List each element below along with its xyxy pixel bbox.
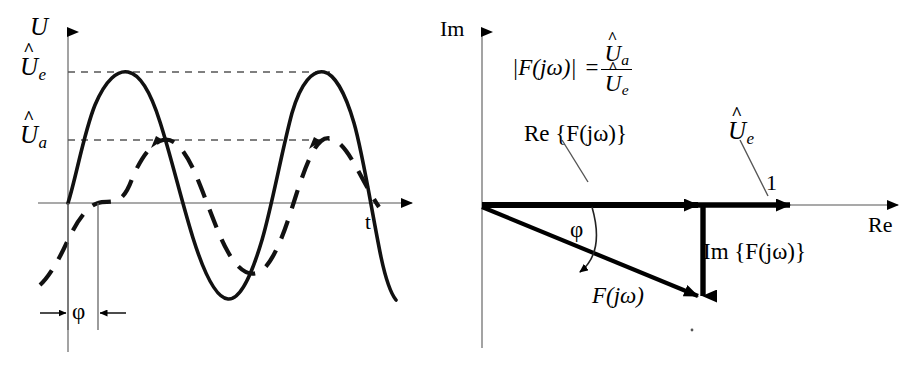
figure-canvas <box>0 0 923 367</box>
t-axis-label: t <box>365 212 371 233</box>
imag-part-label: Im {F(jω)} <box>703 240 806 263</box>
ue-hat-glyph: ^ <box>23 40 34 59</box>
left-phase-label: φ <box>72 300 85 323</box>
ue-hat-glyph-formula: ^ <box>608 59 618 76</box>
frequency-response-figure: U ^ Ue ^ Ua t φ Im Re |F(jω)| = ^ Ua ^ U… <box>0 0 923 367</box>
transfer-function-phasor-arrow <box>482 207 698 296</box>
magnitude-formula-lhs: |F(jω)| <box>512 55 577 80</box>
ue-subscript: e <box>38 65 46 84</box>
scan-artifact-dot <box>691 329 694 332</box>
ue-hat-variable: ^ U <box>20 54 38 79</box>
right-phase-label: φ <box>570 218 583 241</box>
ue-phasor-label: ^ Ue <box>728 118 754 147</box>
magnitude-formula-denominator: ^ Ue <box>601 69 632 98</box>
magnitude-formula: |F(jω)| = ^ Ua ^ Ue <box>512 42 632 98</box>
ue-subscript-phasor: e <box>746 129 754 148</box>
output-waveform-dashed <box>40 138 379 285</box>
ue-hat-glyph-phasor: ^ <box>731 104 742 123</box>
magnitude-formula-fraction: ^ Ua ^ Ue <box>601 42 632 98</box>
ua-hat-variable: ^ U <box>20 122 38 147</box>
left-plot-axes <box>38 32 412 352</box>
ue-subscript-formula: e <box>622 81 629 98</box>
u-axis-label: U <box>30 14 48 39</box>
ue-amplitude-label: ^ Ue <box>20 54 46 83</box>
ue-hat-variable-phasor: ^ U <box>728 118 746 143</box>
im-axis-label: Im <box>440 18 464 40</box>
ua-hat-glyph: ^ <box>23 108 34 127</box>
ue-phasor-leader-line <box>740 140 768 196</box>
ua-hat-glyph-formula: ^ <box>608 29 618 46</box>
real-part-leader-line <box>562 140 588 182</box>
unit-tick-label: 1 <box>766 172 777 194</box>
ua-amplitude-label: ^ Ua <box>20 122 47 151</box>
ua-subscript: a <box>38 133 47 152</box>
transfer-function-label: F(jω) <box>592 284 644 307</box>
re-axis-label: Re <box>868 214 892 236</box>
magnitude-formula-equals: = <box>585 55 598 80</box>
input-waveform-solid <box>68 72 396 300</box>
ue-hat-variable-formula: ^ U <box>605 72 622 95</box>
ua-subscript-formula: a <box>621 51 629 68</box>
real-part-label: Re {F(jω)} <box>524 122 627 145</box>
